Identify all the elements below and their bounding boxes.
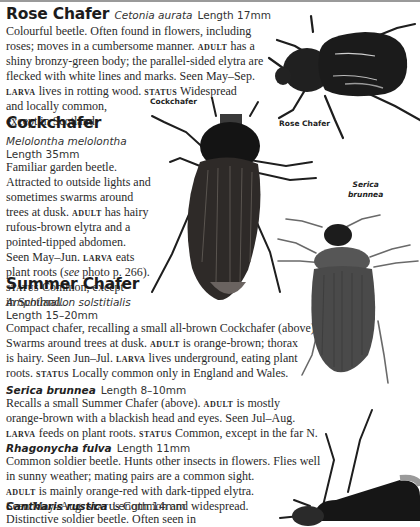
description-line: Colourful beetle. Often found in flowers… (6, 24, 271, 39)
common-name: Cockchafer (6, 114, 101, 132)
length: Length 15–20mm (6, 309, 98, 321)
section-label: ADULT (72, 206, 102, 218)
description-line: orange-brown with a blackish head and ey… (6, 411, 318, 426)
description: Recalls a small Summer Chafer (above). A… (6, 396, 318, 441)
description-line: Seen May–Jun. LARVA eats (6, 250, 151, 265)
section-label: LARVA (83, 251, 113, 263)
common-name: Summer Chafer (6, 275, 139, 293)
section-label: LARVA (6, 85, 36, 97)
length: Length 14mm (112, 500, 185, 512)
entry-cantharis-rustica: Cantharis rustica Length 14mm Distinctiv… (6, 497, 196, 527)
description: Distinctive soldier beetle. Often seen i… (6, 512, 196, 527)
entry-serica-brunnea: Serica brunnea Length 8–10mm Recalls a s… (6, 381, 318, 441)
description: Compact chafer, recalling a small all-br… (6, 321, 318, 381)
section-label: STATUS (36, 367, 69, 379)
description-line: trees at dusk. ADULT has hairy (6, 205, 151, 220)
section-label: STATUS (139, 427, 172, 439)
section-label: LARVA (116, 352, 146, 364)
description-line: in sunny weather; mating pairs are a com… (6, 469, 320, 484)
scientific-name: Serica brunnea (6, 384, 96, 396)
section-label: ADULT (198, 40, 228, 52)
description-line: Distinctive soldier beetle. Often seen i… (6, 512, 196, 527)
caption-cockchafer: Cockchafer (150, 97, 197, 106)
description-line: shiny bronzy-green body; the parallel-si… (6, 54, 271, 69)
caption-serica-brunnea: Serica brunnea (348, 180, 383, 200)
description-line: rufous-brown elytra and a (6, 220, 151, 235)
serica-brunnea-photo (272, 205, 420, 385)
description-line: roses; moves in a cumbersome manner. ADU… (6, 39, 271, 54)
description-line: Compact chafer, recalling a small all-br… (6, 321, 318, 336)
length: Length 11mm (117, 442, 190, 454)
description-line: Familiar garden beetle. (6, 160, 151, 175)
description-line: roots. STATUS Locally common only in Eng… (6, 366, 318, 381)
description-line: pointed-tipped abdomen. (6, 235, 151, 250)
description-line: sometimes swarms around (6, 190, 151, 205)
section-label: ADULT (204, 397, 234, 409)
scientific-name: Rhagonycha fulva (6, 442, 112, 454)
page-top-rule (0, 0, 420, 2)
description-line: Recalls a small Summer Chafer (above). A… (6, 396, 318, 411)
length: Length 35mm (6, 148, 79, 160)
description-line: Attracted to outside lights and (6, 175, 151, 190)
soldier-beetle-photo (280, 400, 420, 521)
caption-line: brunnea (348, 190, 383, 200)
section-label: LARVA (6, 427, 36, 439)
length: Length 17mm (198, 9, 271, 21)
length: Length 8–10mm (101, 384, 186, 396)
section-label: ADULT (150, 337, 180, 349)
description-line: Swarms around trees at dusk. ADULT is or… (6, 336, 318, 351)
section-label: ADULT (6, 485, 36, 497)
description-line: Common soldier beetle. Hunts other insec… (6, 454, 320, 469)
common-name: Rose Chafer (6, 5, 109, 23)
scientific-name: Cetonia aurata (114, 9, 192, 21)
description-line: flecked with white lines and marks. Seen… (6, 69, 271, 84)
caption-line: Serica (348, 180, 383, 190)
description-line: is hairy. Seen Jun–Jul. LARVA lives unde… (6, 351, 318, 366)
scientific-name: Cantharis rustica (6, 500, 107, 512)
